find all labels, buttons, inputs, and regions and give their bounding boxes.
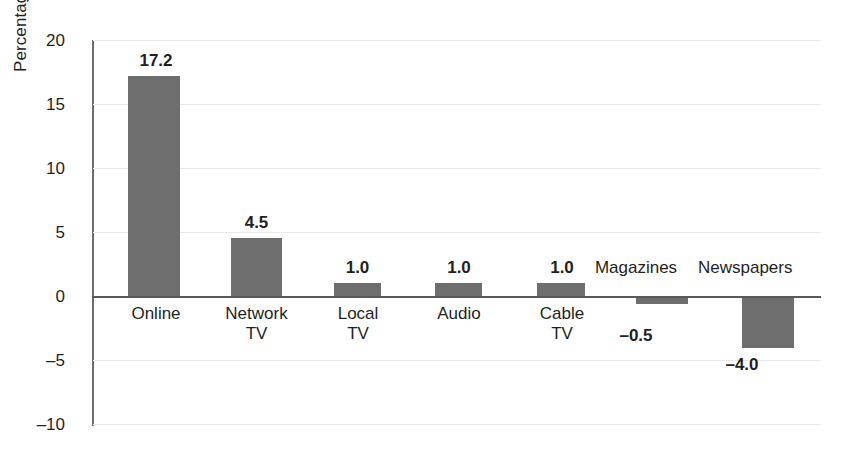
- bar-cable-tv[interactable]: [537, 283, 585, 296]
- category-label-audio: Audio: [407, 304, 511, 324]
- y-tick-label-10: 10: [0, 160, 74, 177]
- y-tick-label-minus10: –10: [0, 416, 74, 433]
- value-label-audio: 1.0: [407, 259, 511, 276]
- category-label-local-tv-line1: Local: [306, 304, 410, 324]
- bar-online[interactable]: [128, 76, 180, 296]
- category-label-cable-tv-line1: Cable: [510, 304, 614, 324]
- y-tick-label-5: 5: [0, 224, 74, 241]
- bar-network-tv[interactable]: [231, 238, 282, 296]
- y-tick-label-0: 0: [0, 288, 74, 305]
- bar-audio[interactable]: [435, 283, 482, 296]
- y-axis-title: Percentage: [2, 0, 40, 178]
- value-label-local-tv: 1.0: [306, 259, 409, 276]
- y-tick-label-minus5: –5: [0, 352, 74, 369]
- bar-local-tv[interactable]: [334, 283, 381, 296]
- category-label-network-tv-line2: TV: [204, 324, 309, 344]
- gridline-minus10: [93, 424, 821, 425]
- category-label-cable-tv: Cable TV: [510, 304, 614, 344]
- category-label-network-tv: Network TV: [204, 304, 309, 344]
- value-label-network-tv: 4.5: [205, 214, 308, 231]
- bar-magazines[interactable]: [636, 297, 688, 304]
- category-label-online: Online: [101, 304, 211, 324]
- zero-axis-line: [92, 296, 821, 298]
- gridline-5: [93, 232, 821, 233]
- category-label-audio-line1: Audio: [407, 304, 511, 324]
- category-label-newspapers: Newspapers: [698, 258, 826, 278]
- category-label-online-line1: Online: [101, 304, 211, 324]
- category-label-newspapers-line1: Newspapers: [698, 258, 826, 278]
- value-label-online: 17.2: [103, 52, 209, 69]
- gridline-20: [93, 40, 821, 41]
- category-label-cable-tv-line2: TV: [510, 324, 614, 344]
- gridline-15: [93, 104, 821, 105]
- category-label-local-tv-line2: TV: [306, 324, 410, 344]
- y-tick-label-15: 15: [0, 96, 74, 113]
- category-label-magazines: Magazines: [584, 258, 688, 278]
- bar-newspapers[interactable]: [742, 297, 794, 348]
- gridline-10: [93, 168, 821, 169]
- category-label-network-tv-line1: Network: [204, 304, 309, 324]
- category-label-local-tv: Local TV: [306, 304, 410, 344]
- value-label-newspapers: –4.0: [690, 356, 794, 373]
- category-label-magazines-line1: Magazines: [584, 258, 688, 278]
- bar-chart: Percentage 20 15 10 5 0 –5 –10 17.2: [0, 0, 857, 450]
- y-tick-label-20: 20: [0, 32, 74, 49]
